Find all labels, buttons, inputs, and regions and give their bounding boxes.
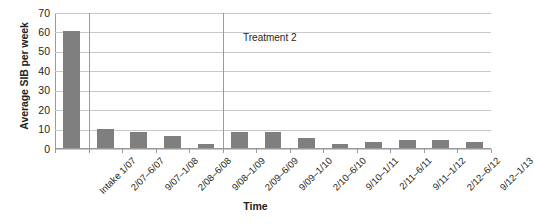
x-axis-tick-label: 2/11–6/11 [397, 155, 434, 192]
x-axis-title: Time [0, 200, 511, 212]
x-axis-tick-label: 2/09–6/09 [263, 155, 301, 193]
x-axis-tick-label: 2/12–6/12 [464, 155, 502, 193]
x-axis-tick-label: 9/08–1/09 [229, 155, 267, 193]
x-axis-tick-label: 2/10–6/10 [330, 155, 368, 193]
x-axis-tick-label: 9/10–1/11 [363, 155, 400, 192]
x-axis-tick-label: 9/11–1/12 [430, 155, 467, 192]
x-axis-tick-label: 2/08–6/08 [196, 155, 234, 193]
x-axis-tick-label: 9/12–1/13 [498, 155, 535, 193]
x-axis-tick-label: 9/07–1/08 [162, 155, 200, 193]
x-axis-tick-label: Intake 1/07 [97, 155, 138, 196]
x-axis-tick-label: 9/09–1/10 [296, 155, 334, 193]
